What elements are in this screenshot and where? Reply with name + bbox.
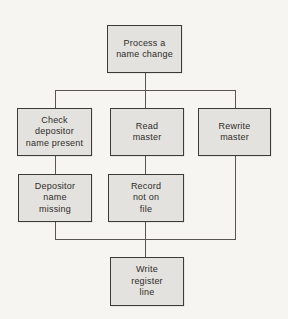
node-rewrite-master: Rewrite master <box>198 108 271 156</box>
node-check-depositor-name-present: Check depositor name present <box>17 108 92 156</box>
node-label-rewrite-master: Rewrite master <box>219 121 251 144</box>
node-label-record-not-on-file: Record not on file <box>131 181 161 216</box>
node-read-master: Read master <box>110 108 184 156</box>
connector-rewrite-down <box>235 156 236 240</box>
node-label-depositor-name-missing: Depositor name missing <box>35 181 75 216</box>
connector-row2-horizontal <box>55 239 236 240</box>
connector-drop-left <box>55 90 56 108</box>
connector-drop-right <box>235 90 236 108</box>
connector-check-to-missing <box>55 156 56 174</box>
node-label-write-register-line: Write register line <box>131 264 163 299</box>
node-label-check-depositor-name-present: Check depositor name present <box>26 115 83 150</box>
node-label-process-a-name-change: Process a name change <box>116 38 173 61</box>
node-label-read-master: Read master <box>133 121 162 144</box>
connector-drop-middle <box>145 90 146 108</box>
connector-read-to-record <box>145 156 146 174</box>
node-write-register-line: Write register line <box>110 257 184 306</box>
node-process-a-name-change: Process a name change <box>107 25 182 73</box>
node-depositor-name-missing: Depositor name missing <box>18 174 92 222</box>
flowchart-canvas: Process a name change Check depositor na… <box>0 0 288 319</box>
connector-missing-down <box>55 222 56 240</box>
connector-top-stub <box>145 73 146 90</box>
node-record-not-on-file: Record not on file <box>108 174 184 222</box>
